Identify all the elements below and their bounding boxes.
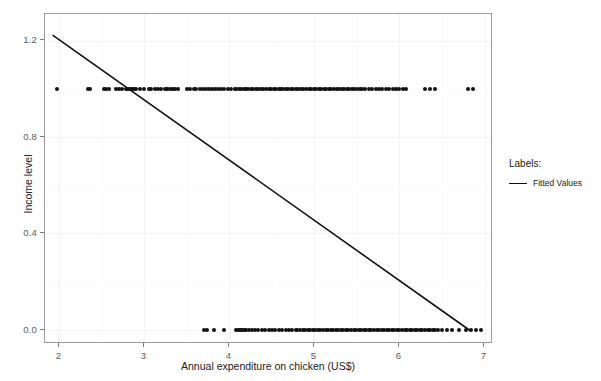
x-axis-tick-mark xyxy=(228,343,229,347)
legend-title: Labels: xyxy=(509,158,599,169)
x-axis-tick-mark xyxy=(398,343,399,347)
y-axis-title: Income level xyxy=(22,104,34,264)
y-axis-tick-label: 0.0 xyxy=(3,323,37,334)
x-axis-tick-mark xyxy=(313,343,314,347)
y-axis-tick-mark xyxy=(40,136,44,137)
legend-item[interactable]: Fitted Values xyxy=(509,178,599,188)
legend-entries: Fitted Values xyxy=(509,178,599,188)
y-axis-tick-mark xyxy=(40,232,44,233)
legend: Labels: Fitted Values xyxy=(509,158,599,188)
legend-line-icon xyxy=(509,183,527,184)
y-axis-tick-mark xyxy=(40,329,44,330)
fitted-line xyxy=(45,14,491,343)
x-axis-tick-mark xyxy=(58,343,59,347)
chart-figure: 0.00.40.81.2 234567 Annual expenditure o… xyxy=(0,0,601,381)
y-axis-tick-mark xyxy=(40,39,44,40)
x-axis-tick-mark xyxy=(143,343,144,347)
y-axis-tick-label: 1.2 xyxy=(3,34,37,45)
x-axis-tick-mark xyxy=(483,343,484,347)
plot-panel xyxy=(44,13,492,343)
x-axis-title: Annual expenditure on chicken (US$) xyxy=(44,360,492,372)
legend-item-label: Fitted Values xyxy=(533,178,582,188)
